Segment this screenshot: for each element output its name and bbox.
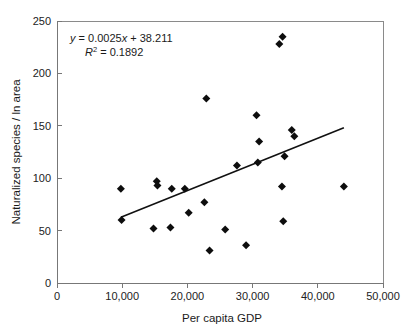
r-squared-var: R (85, 46, 93, 58)
data-point-marker (278, 183, 286, 191)
chart-svg: 0 50 100 150 200 250 0 10,000 20,000 30,… (0, 0, 415, 335)
y-tick-label-100: 100 (33, 172, 51, 184)
plot-frame (57, 21, 383, 283)
data-point-marker (279, 33, 287, 41)
data-point-marker (275, 40, 283, 48)
y-tick-label-200: 200 (33, 67, 51, 79)
x-axis-ticks (57, 283, 383, 288)
y-tick-label-250: 250 (33, 15, 51, 27)
x-tick-label-40000: 40,000 (301, 290, 335, 302)
regression-equation: y = 0.0025x + 38.211 (69, 32, 173, 44)
data-point-marker (202, 95, 210, 103)
data-point-marker (185, 209, 193, 217)
x-axis-tick-labels: 0 10,000 20,000 30,000 40,000 50,000 (54, 290, 400, 302)
data-point-marker (149, 225, 157, 233)
data-point-marker (117, 185, 125, 193)
trend-line-group (121, 128, 344, 218)
x-tick-label-50000: 50,000 (366, 290, 400, 302)
data-point-marker (221, 226, 229, 234)
data-point-marker (253, 111, 261, 119)
r-squared-value: = 0.1892 (97, 46, 143, 58)
regression-trend-line (121, 128, 344, 218)
y-tick-label-50: 50 (39, 225, 51, 237)
data-point-marker (255, 138, 263, 146)
equation-body: = 0.0025 (76, 32, 122, 44)
data-point-marker (254, 158, 262, 166)
regression-annotation: y = 0.0025x + 38.211 R2 = 0.1892 (69, 32, 173, 58)
data-point-marker (233, 162, 241, 170)
y-axis-title: Naturalized species / ln area (10, 79, 22, 225)
y-tick-label-150: 150 (33, 120, 51, 132)
data-point-marker (340, 183, 348, 191)
data-point-marker (168, 185, 176, 193)
x-tick-label-10000: 10,000 (105, 290, 139, 302)
data-point-marker (279, 217, 287, 225)
data-point-marker (242, 241, 250, 249)
data-points-layer (117, 33, 348, 255)
r-squared-annotation: R2 = 0.1892 (85, 45, 143, 58)
y-tick-label-0: 0 (45, 277, 51, 289)
y-axis-ticks (57, 21, 62, 283)
x-tick-label-0: 0 (54, 290, 60, 302)
x-axis-title: Per capita GDP (182, 312, 262, 324)
y-axis-tick-labels: 0 50 100 150 200 250 (33, 15, 51, 289)
scatter-chart: 0 50 100 150 200 250 0 10,000 20,000 30,… (0, 0, 415, 335)
data-point-marker (200, 198, 208, 206)
x-tick-label-20000: 20,000 (171, 290, 205, 302)
data-point-marker (206, 247, 214, 255)
equation-tail: + 38.211 (127, 32, 172, 44)
x-tick-label-30000: 30,000 (236, 290, 270, 302)
data-point-marker (181, 185, 189, 193)
data-point-marker (118, 216, 126, 224)
data-point-marker (166, 223, 174, 231)
